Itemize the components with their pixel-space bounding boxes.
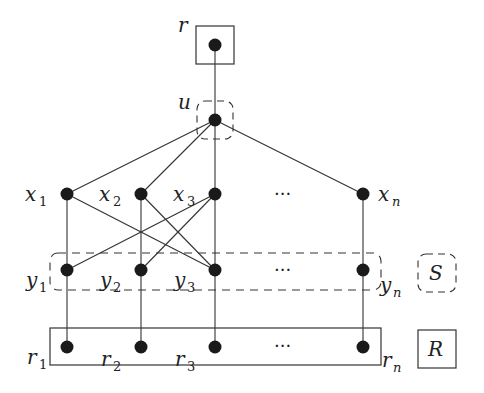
label-r: r — [178, 13, 189, 37]
label-xn: x — [378, 182, 389, 206]
node-r3 — [209, 341, 222, 354]
node-r2 — [135, 341, 148, 354]
node-u — [209, 114, 222, 127]
label-r1: r — [27, 345, 38, 369]
label-x2: x — [99, 182, 110, 206]
graph-diagram: r u x 1 x 2 x 3 x n y 1 y 2 y 3 y n r 1 … — [0, 0, 484, 393]
label-r2: r — [101, 347, 112, 371]
label-set-s: S — [429, 261, 443, 285]
node-x3 — [209, 188, 222, 201]
label-xn-sub: n — [392, 194, 400, 209]
node-xn — [357, 188, 370, 201]
label-x3-sub: 3 — [187, 194, 195, 209]
ellipsis-x-row: ··· — [274, 183, 291, 204]
label-y3: y — [173, 268, 186, 292]
label-r3-sub: 3 — [187, 359, 195, 374]
node-yn — [357, 264, 370, 277]
label-yn-sub: n — [393, 285, 401, 300]
label-rn: r — [382, 348, 393, 372]
label-y1-sub: 1 — [39, 280, 47, 295]
label-u: u — [178, 90, 191, 114]
node-x1 — [61, 188, 74, 201]
ellipsis-r-row: ··· — [274, 335, 291, 356]
label-y3-sub: 3 — [187, 280, 195, 295]
label-r3: r — [175, 347, 186, 371]
node-y1 — [61, 264, 74, 277]
label-x3: x — [173, 182, 184, 206]
node-y3 — [209, 264, 222, 277]
label-y1: y — [25, 268, 38, 292]
label-r1-sub: 1 — [39, 357, 47, 372]
label-y2: y — [99, 268, 112, 292]
label-x2-sub: 2 — [113, 194, 121, 209]
label-yn: y — [379, 273, 392, 297]
label-rn-sub: n — [393, 360, 401, 375]
label-set-r: R — [427, 337, 443, 361]
edge-u-x1 — [67, 120, 215, 194]
node-rn — [357, 341, 370, 354]
label-x1-sub: 1 — [39, 194, 47, 209]
node-r — [209, 39, 222, 52]
node-y2 — [135, 264, 148, 277]
ellipsis-y-row: ··· — [274, 259, 291, 280]
label-r2-sub: 2 — [113, 359, 121, 374]
label-y2-sub: 2 — [113, 280, 121, 295]
label-x1: x — [25, 182, 36, 206]
node-r1 — [61, 341, 74, 354]
node-x2 — [135, 188, 148, 201]
